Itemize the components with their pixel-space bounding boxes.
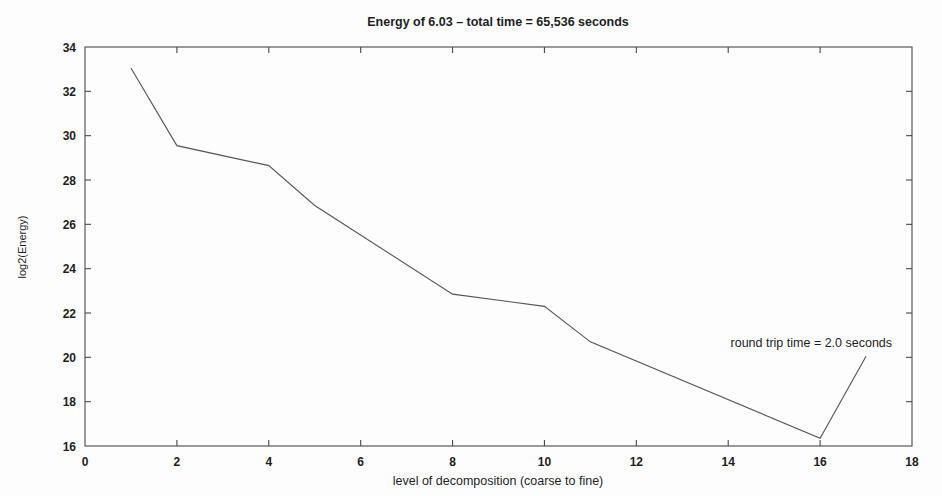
- x-tick-label: 2: [174, 455, 181, 469]
- y-tick-label: 34: [63, 41, 77, 55]
- x-tick-label: 18: [905, 455, 919, 469]
- x-tick-label: 14: [722, 455, 736, 469]
- x-tick-label: 0: [82, 455, 89, 469]
- chart-title: Energy of 6.03 – total time = 65,536 sec…: [367, 15, 629, 29]
- x-tick-label: 6: [357, 455, 364, 469]
- x-tick-label: 12: [630, 455, 644, 469]
- chart-figure: Energy of 6.03 – total time = 65,536 sec…: [0, 0, 942, 496]
- x-tick-label: 4: [265, 455, 272, 469]
- y-tick-label: 28: [63, 174, 77, 188]
- y-tick-label: 32: [63, 85, 77, 99]
- y-tick-label: 20: [63, 351, 77, 365]
- y-tick-label: 26: [63, 218, 77, 232]
- y-tick-label: 22: [63, 307, 77, 321]
- x-tick-label: 8: [449, 455, 456, 469]
- y-tick-label: 18: [63, 395, 77, 409]
- y-tick-label: 24: [63, 262, 77, 276]
- y-axis-title: log2(Energy): [16, 216, 28, 279]
- annotation-label: round trip time = 2.0 seconds: [731, 336, 893, 350]
- x-axis-title: level of decomposition (coarse to fine): [393, 474, 604, 488]
- y-tick-label: 16: [63, 440, 77, 454]
- chart-annotations: round trip time = 2.0 seconds: [731, 336, 893, 350]
- x-tick-label: 10: [538, 455, 552, 469]
- x-tick-label: 16: [813, 455, 827, 469]
- energy-decomposition-line-chart: Energy of 6.03 – total time = 65,536 sec…: [0, 0, 942, 496]
- figure-background: [0, 0, 942, 496]
- y-tick-label: 30: [63, 129, 77, 143]
